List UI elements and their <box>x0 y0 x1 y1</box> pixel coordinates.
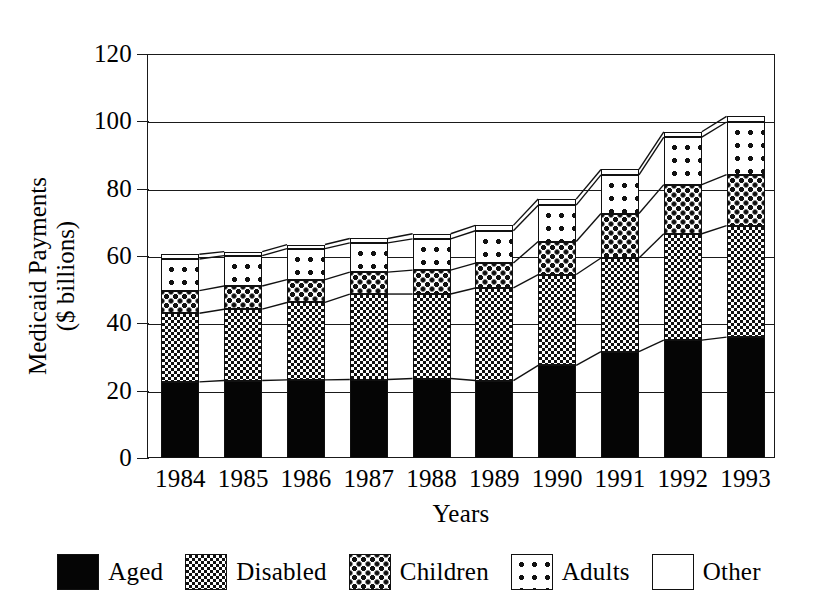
bar-segment-disabled <box>224 309 262 380</box>
bar-segment-other <box>601 169 639 174</box>
bar-segment-adults <box>538 205 576 241</box>
x-axis-tick-label: 1988 <box>397 466 467 491</box>
y-axis-tick <box>137 121 149 122</box>
x-axis-tick-label: 1985 <box>208 466 278 491</box>
bar-segment-disabled <box>727 226 765 337</box>
bar-1984 <box>161 54 199 458</box>
bar-1986 <box>287 54 325 458</box>
bar-segment-children <box>664 185 702 234</box>
legend-item-disabled[interactable]: Disabled <box>185 554 326 590</box>
legend-item-aged[interactable]: Aged <box>57 554 163 590</box>
bar-segment-aged <box>287 380 325 458</box>
bar-segment-aged <box>224 381 262 458</box>
bar-segment-adults <box>287 249 325 280</box>
bar-segment-disabled <box>161 313 199 382</box>
bar-1992 <box>664 54 702 458</box>
bar-segment-adults <box>161 259 199 291</box>
legend-label: Disabled <box>236 558 326 586</box>
bar-segment-aged <box>601 352 639 458</box>
bar-segment-adults <box>664 137 702 184</box>
bar-segment-children <box>287 280 325 303</box>
bar-segment-adults <box>413 239 451 270</box>
bar-segment-aged <box>161 382 199 458</box>
bar-segment-aged <box>413 379 451 458</box>
legend-label: Children <box>400 558 489 586</box>
x-axis-title: Years <box>147 500 775 528</box>
bar-segment-adults <box>224 256 262 286</box>
bar-segment-disabled <box>413 294 451 379</box>
bar-segment-other <box>413 234 451 239</box>
bar-segment-disabled <box>538 275 576 366</box>
bar-segment-adults <box>475 231 513 263</box>
bar-segment-other <box>538 199 576 205</box>
x-axis-tick-label: 1990 <box>522 466 592 491</box>
bar-segment-children <box>727 175 765 226</box>
dense-dot-swatch <box>349 554 391 590</box>
bar-1985 <box>224 54 262 458</box>
bar-segment-other <box>727 116 765 122</box>
y-axis-tick <box>137 54 149 55</box>
stacked-bar-chart: 020406080100120 Medicaid Payments ($ bil… <box>0 0 818 609</box>
bar-segment-other <box>224 252 262 256</box>
bar-segment-disabled <box>475 288 513 381</box>
bar-segment-other <box>350 238 388 242</box>
bar-1990 <box>538 54 576 458</box>
y-axis-tick <box>137 256 149 257</box>
bar-segment-children <box>538 242 576 275</box>
bar-segment-children <box>224 286 262 309</box>
bar-1987 <box>350 54 388 458</box>
bar-1989 <box>475 54 513 458</box>
bar-segment-aged <box>664 340 702 458</box>
legend-label: Other <box>703 558 761 586</box>
bar-1993 <box>727 54 765 458</box>
x-axis-tick-label: 1993 <box>711 466 781 491</box>
sparse-dot-swatch <box>511 554 553 590</box>
bar-segment-disabled <box>664 234 702 340</box>
y-axis-tick <box>137 458 149 459</box>
bar-segment-children <box>161 291 199 314</box>
legend-item-children[interactable]: Children <box>349 554 489 590</box>
bar-segment-aged <box>538 365 576 458</box>
bar-segment-children <box>601 214 639 258</box>
bar-segment-aged <box>350 380 388 458</box>
bar-segment-children <box>475 263 513 288</box>
x-axis-tick-label: 1987 <box>334 466 404 491</box>
checkerboard-swatch <box>185 554 227 590</box>
x-axis-tick-label: 1992 <box>648 466 718 491</box>
bar-segment-adults <box>350 243 388 272</box>
bar-1988 <box>413 54 451 458</box>
bar-segment-other <box>475 225 513 230</box>
bar-segment-disabled <box>287 302 325 379</box>
bar-segment-other <box>287 245 325 249</box>
bar-1991 <box>601 54 639 458</box>
legend-item-other[interactable]: Other <box>652 554 761 590</box>
bar-segment-adults <box>601 175 639 214</box>
x-axis-tick-label: 1989 <box>459 466 529 491</box>
bar-segment-other <box>161 254 199 259</box>
bar-segment-disabled <box>601 258 639 352</box>
bar-segment-other <box>664 132 702 137</box>
bar-segment-aged <box>727 337 765 458</box>
white-swatch <box>652 554 694 590</box>
x-axis-tick-label: 1984 <box>145 466 215 491</box>
y-axis-tick <box>137 189 149 190</box>
bar-segment-aged <box>475 381 513 458</box>
x-axis-tick-labels: 1984198519861987198819891990199119921993 <box>147 466 775 500</box>
x-axis-tick-label: 1991 <box>585 466 655 491</box>
y-axis-tick <box>137 391 149 392</box>
solid-black-swatch <box>57 554 99 590</box>
bar-segment-disabled <box>350 294 388 380</box>
legend-item-adults[interactable]: Adults <box>511 554 630 590</box>
legend-label: Adults <box>562 558 630 586</box>
x-axis-tick-label: 1986 <box>271 466 341 491</box>
chart-legend: AgedDisabledChildrenAdultsOther <box>0 548 818 596</box>
legend-label: Aged <box>108 558 163 586</box>
y-axis-tick <box>137 323 149 324</box>
bar-segment-children <box>350 272 388 294</box>
bar-segment-children <box>413 270 451 294</box>
bar-segment-adults <box>727 122 765 175</box>
